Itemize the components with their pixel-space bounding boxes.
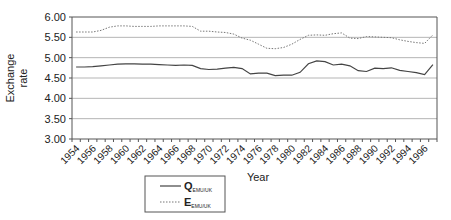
series-line-q bbox=[76, 61, 433, 76]
y-axis-label-line1: Exchange bbox=[4, 54, 16, 103]
gridlines bbox=[72, 37, 437, 118]
x-axis-label: Year bbox=[247, 171, 270, 183]
y-tick-label: 3.50 bbox=[45, 113, 66, 125]
y-tick-label: 5.50 bbox=[45, 31, 66, 43]
x-axis-ticks: 1954195619581960196219641966196819701972… bbox=[58, 139, 437, 166]
series-lines bbox=[76, 26, 433, 76]
legend-subscript-e: EMU/UK bbox=[191, 203, 211, 209]
legend: QEMU/UK EEMU/UK bbox=[145, 176, 225, 212]
y-axis-label-line2: rate bbox=[17, 69, 29, 88]
x-tick-label: 1996 bbox=[406, 142, 430, 166]
y-tick-label: 6.00 bbox=[45, 11, 66, 23]
y-tick-label: 3.00 bbox=[45, 133, 66, 145]
legend-subscript-q: EMU/UK bbox=[193, 187, 213, 193]
y-tick-label: 4.50 bbox=[45, 72, 66, 84]
exchange-rate-chart: 3.003.504.004.505.005.506.00 19541956195… bbox=[0, 0, 451, 220]
y-axis-ticks: 3.003.504.004.505.005.506.00 bbox=[45, 11, 72, 145]
y-tick-label: 5.00 bbox=[45, 52, 66, 64]
y-tick-label: 4.00 bbox=[45, 92, 66, 104]
